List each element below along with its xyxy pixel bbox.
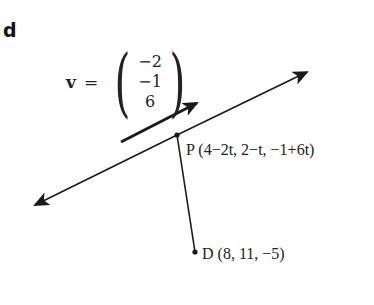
vector-components: −2 −1 6 xyxy=(135,52,165,112)
point-D-dot xyxy=(192,249,197,254)
point-D-name: D xyxy=(202,245,214,262)
point-P-label: P (4−2t, 2−t, −1+6t) xyxy=(186,141,314,159)
vector-equation: v = ( −2 −1 6 ) xyxy=(66,46,192,118)
point-D-label: D (8, 11, −5) xyxy=(202,245,285,263)
point-P-coords: (4−2t, 2−t, −1+6t) xyxy=(198,141,314,158)
left-paren: ( xyxy=(115,46,131,118)
right-paren: ) xyxy=(170,46,186,118)
vector-component-z: 6 xyxy=(135,92,165,112)
vector-name: v xyxy=(66,72,76,92)
vector-component-y: −1 xyxy=(135,72,165,92)
part-label: d xyxy=(3,19,17,41)
point-D-coords: (8, 11, −5) xyxy=(218,245,285,262)
point-P-dot xyxy=(174,132,179,137)
vector-component-x: −2 xyxy=(135,52,165,72)
equals-sign: = xyxy=(84,72,98,92)
point-P-name: P xyxy=(186,141,194,158)
